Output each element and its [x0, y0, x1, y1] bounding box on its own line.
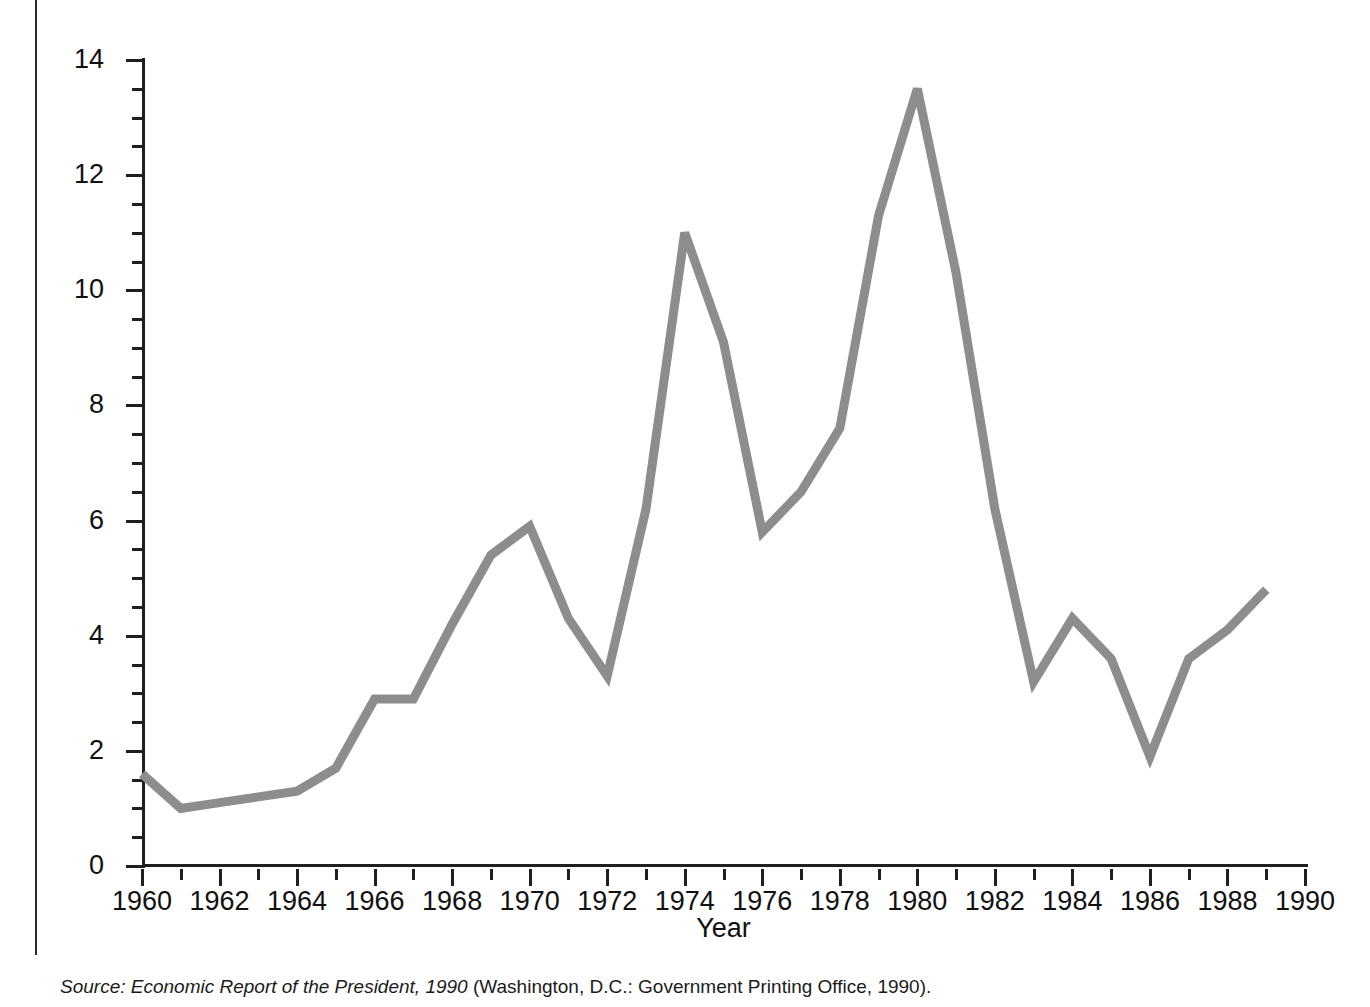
x-tick: [878, 869, 881, 880]
y-tick: [132, 462, 142, 465]
y-tick: [132, 232, 142, 235]
x-tick: [219, 869, 222, 886]
y-tick: [132, 117, 142, 120]
x-tick: [180, 869, 183, 880]
y-tick-label: 12: [60, 161, 104, 188]
x-tick: [451, 869, 454, 886]
x-tick: [567, 869, 570, 880]
y-tick-label: 2: [60, 737, 104, 764]
y-tick: [132, 145, 142, 148]
y-tick: [132, 779, 142, 782]
y-tick: [132, 203, 142, 206]
y-tick-label: 6: [60, 507, 104, 534]
y-tick: [126, 520, 142, 523]
x-tick: [1304, 869, 1307, 886]
x-tick: [529, 869, 532, 886]
y-tick: [132, 548, 142, 551]
y-tick: [132, 577, 142, 580]
x-tick: [1149, 869, 1152, 886]
y-tick: [132, 836, 142, 839]
x-tick: [955, 869, 958, 880]
x-tick: [723, 869, 726, 880]
y-tick: [132, 606, 142, 609]
plot-area: [142, 60, 1305, 866]
x-tick: [1188, 869, 1191, 880]
x-tick: [296, 869, 299, 886]
y-tick: [126, 635, 142, 638]
x-tick: [761, 869, 764, 886]
x-tick: [141, 869, 144, 886]
y-tick-label: 8: [60, 391, 104, 418]
x-tick: [645, 869, 648, 880]
x-tick: [335, 869, 338, 880]
x-tick: [800, 869, 803, 880]
y-tick: [126, 174, 142, 177]
x-tick-label: 1990: [1245, 886, 1365, 916]
source-note-publisher: (Washington, D.C.: Government Printing O…: [468, 976, 932, 997]
y-tick: [126, 289, 142, 292]
y-tick-label: 4: [60, 622, 104, 649]
chart-figure: 02468101214 1960196219641966196819701972…: [0, 0, 1370, 1007]
y-tick: [132, 692, 142, 695]
x-tick: [374, 869, 377, 886]
y-tick: [132, 491, 142, 494]
y-tick: [132, 318, 142, 321]
x-tick: [606, 869, 609, 886]
y-tick: [126, 865, 142, 868]
x-tick: [1033, 869, 1036, 880]
y-axis-title: Percentage increase in consumer price in…: [48, 0, 84, 132]
x-tick: [994, 869, 997, 886]
x-tick: [839, 869, 842, 886]
x-tick: [916, 869, 919, 886]
y-tick-label: 0: [60, 852, 104, 879]
x-tick: [1071, 869, 1074, 886]
y-tick: [132, 721, 142, 724]
x-tick: [490, 869, 493, 880]
y-tick-label: 10: [60, 276, 104, 303]
x-tick: [257, 869, 260, 880]
x-tick: [1226, 869, 1229, 886]
y-tick: [126, 59, 142, 62]
x-tick: [412, 869, 415, 880]
y-tick: [132, 664, 142, 667]
x-axis-title: Year: [142, 913, 1305, 943]
x-tick: [1110, 869, 1113, 880]
source-note-title: Source: Economic Report of the President…: [60, 976, 468, 997]
y-tick: [126, 750, 142, 753]
y-tick: [126, 404, 142, 407]
y-tick: [132, 88, 142, 91]
y-tick: [132, 433, 142, 436]
y-tick: [132, 347, 142, 350]
y-tick: [132, 261, 142, 264]
y-tick: [132, 376, 142, 379]
source-note: Source: Economic Report of the President…: [60, 975, 931, 999]
y-tick: [132, 807, 142, 810]
x-tick: [1265, 869, 1268, 880]
x-tick: [684, 869, 687, 886]
